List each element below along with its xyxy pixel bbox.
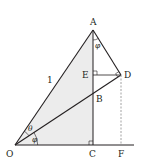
label-f: F: [118, 149, 124, 159]
right-angle-mark-e: [93, 71, 97, 75]
label-c: C: [89, 149, 96, 159]
label-d: D: [124, 70, 131, 80]
angle-arc-phi-a: [93, 39, 98, 41]
geometry-diagram: A E D B O C F 1 θ φ φ: [0, 0, 145, 166]
label-side-oa: 1: [47, 75, 53, 85]
label-theta: θ: [28, 124, 33, 133]
label-b: B: [96, 94, 103, 104]
label-phi-o: φ: [32, 135, 38, 144]
label-e: E: [82, 70, 89, 80]
label-phi-a: φ: [95, 41, 101, 50]
label-a: A: [89, 17, 97, 27]
label-o: O: [6, 149, 13, 159]
segment-ad: [93, 30, 121, 75]
